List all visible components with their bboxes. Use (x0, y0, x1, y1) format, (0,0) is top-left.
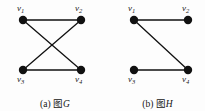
vertex-label-subscript: 3 (21, 78, 24, 85)
caption-graph-h: (b) 图H (110, 100, 205, 110)
vertex-label-v3: v3 (17, 75, 24, 84)
vertex-label-subscript: 1 (132, 7, 135, 14)
figure-root: v1v2v3v4 (a) 图G v1v2v3v4 (b) 图H (0, 0, 205, 111)
graph-vertex-v1 (130, 16, 138, 24)
caption-g-name: G (63, 99, 70, 109)
vertex-label-subscript: 4 (79, 78, 82, 85)
vertex-label-v2: v2 (75, 4, 82, 13)
vertex-label-subscript: 2 (186, 7, 189, 14)
caption-h-prefix: (b) (142, 99, 153, 109)
caption-g-prefix: (a) (40, 99, 51, 109)
graph-vertex-v1 (19, 16, 27, 24)
graph-g-edges (23, 20, 81, 70)
graph-panel-g: v1v2v3v4 (a) 图G (0, 0, 110, 111)
vertex-label-subscript: 3 (132, 78, 135, 85)
caption-graph-g: (a) 图G (0, 100, 110, 110)
graph-panel-h: v1v2v3v4 (b) 图H (110, 0, 205, 111)
vertex-label-v3: v3 (128, 75, 135, 84)
vertex-label-v1: v1 (17, 4, 24, 13)
graph-vertex-v2 (77, 16, 85, 24)
caption-h-name: H (166, 99, 173, 109)
graph-vertex-v4 (77, 66, 85, 74)
vertex-label-v4: v4 (182, 75, 189, 84)
vertex-label-v1: v1 (128, 4, 135, 13)
vertex-label-v2: v2 (182, 4, 189, 13)
graph-vertex-v3 (130, 66, 138, 74)
graph-h-drawing (110, 0, 205, 92)
graph-vertex-v4 (184, 66, 192, 74)
caption-g-word: 图 (53, 99, 63, 109)
caption-h-word: 图 (156, 99, 166, 109)
vertex-label-v4: v4 (75, 75, 82, 84)
graph-vertex-v2 (184, 16, 192, 24)
graph-h-edges (134, 20, 188, 70)
vertex-label-subscript: 2 (79, 7, 82, 14)
vertex-label-subscript: 1 (21, 7, 24, 14)
graph-edge-v1-v4 (134, 20, 188, 70)
graph-vertex-v3 (19, 66, 27, 74)
vertex-label-subscript: 4 (186, 78, 189, 85)
